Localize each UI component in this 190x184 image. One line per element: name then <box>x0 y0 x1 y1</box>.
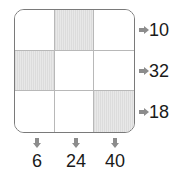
col-clue-1: 6 <box>22 138 52 171</box>
col-clue-value: 24 <box>66 151 86 171</box>
col-clue-3: 40 <box>100 138 130 171</box>
grid-cell-r1c0-shaded <box>15 51 55 92</box>
arrow-right-icon <box>139 26 149 34</box>
row-clue-value: 10 <box>149 20 169 40</box>
grid-cell-r0c0 <box>15 10 55 51</box>
arrow-down-icon <box>33 138 41 148</box>
row-clue-2: 32 <box>139 61 169 81</box>
arrow-right-icon <box>139 108 149 116</box>
row-clue-value: 18 <box>149 102 169 122</box>
grid-cell-r0c1-shaded <box>55 10 95 51</box>
puzzle-grid <box>14 9 135 133</box>
col-clue-value: 6 <box>32 151 42 171</box>
col-clue-value: 40 <box>105 151 125 171</box>
grid-cell-r2c0 <box>15 91 55 132</box>
arrow-down-icon <box>72 138 80 148</box>
row-clue-value: 32 <box>149 61 169 81</box>
arrow-right-icon <box>139 67 149 75</box>
grid-cell-r1c2 <box>94 51 134 92</box>
grid-cell-r1c1 <box>55 51 95 92</box>
row-clue-3: 18 <box>139 102 169 122</box>
grid-cell-r2c1 <box>55 91 95 132</box>
grid-cell-r2c2-shaded <box>94 91 134 132</box>
arrow-down-icon <box>111 138 119 148</box>
grid-cell-r0c2 <box>94 10 134 51</box>
row-clue-1: 10 <box>139 20 169 40</box>
col-clue-2: 24 <box>61 138 91 171</box>
